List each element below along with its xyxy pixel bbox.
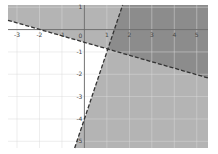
x-tick-label: 1 bbox=[105, 31, 109, 38]
x-tick-label: 4 bbox=[172, 31, 176, 38]
x-tick-label: -2 bbox=[36, 31, 42, 38]
x-tick-label: 5 bbox=[195, 31, 199, 38]
x-tick-label: -3 bbox=[14, 31, 20, 38]
x-tick-label: -1 bbox=[59, 31, 65, 38]
y-tick-label: -5 bbox=[76, 137, 82, 144]
y-tick-label: -2 bbox=[76, 70, 82, 77]
shaded-regions bbox=[8, 5, 208, 148]
x-tick-label: 2 bbox=[127, 31, 131, 38]
x-tick-label: 3 bbox=[150, 31, 154, 38]
y-tick-label: -1 bbox=[76, 48, 82, 55]
y-tick-label: 1 bbox=[79, 3, 83, 10]
y-tick-label: -3 bbox=[76, 93, 82, 100]
inequality-graph: -3-2-11234510-1-2-3-4-5 bbox=[0, 0, 218, 154]
y-tick-label: -4 bbox=[76, 115, 82, 122]
y-tick-label: 0 bbox=[79, 32, 83, 39]
